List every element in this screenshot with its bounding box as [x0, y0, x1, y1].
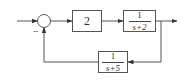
summing-junction	[38, 15, 51, 28]
feedback-return-line	[44, 28, 98, 63]
feedback-numerator: 1	[111, 52, 116, 62]
feedback-minus-sign: −	[33, 27, 39, 37]
gain-block: 2	[72, 10, 102, 32]
feedback-denominator: s+5	[106, 63, 120, 73]
plant-fraction: 1 s+2	[129, 11, 151, 32]
plant-denominator: s+2	[132, 22, 146, 32]
plant-transfer-function-block: 1 s+2	[123, 10, 156, 32]
feedback-fraction: 1 s+5	[102, 52, 124, 73]
plant-numerator: 1	[137, 11, 142, 21]
gain-value: 2	[84, 15, 90, 27]
feedback-transfer-function-block: 1 s+5	[98, 51, 128, 73]
